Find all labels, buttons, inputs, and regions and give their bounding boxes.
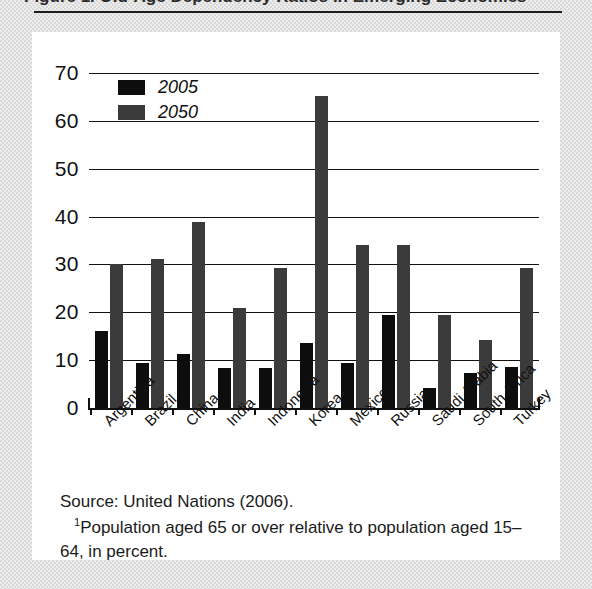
footnote-line: 1Population aged 65 or over relative to …	[60, 515, 536, 564]
bar-china-2005	[177, 354, 190, 408]
bar-argentina-2050	[110, 264, 123, 408]
x-axis-tick	[418, 408, 420, 415]
figure-page: Figure 1. Old-Age Dependency Ratios in E…	[0, 0, 592, 589]
bar-korea-2050	[315, 96, 328, 409]
bar-mexico-2050	[356, 245, 369, 408]
legend-label-2005: 2005	[158, 77, 198, 98]
x-axis-tick	[172, 408, 174, 415]
source-line: Source: United Nations (2006).	[60, 490, 536, 514]
bar-india-2050	[233, 308, 246, 409]
y-axis-tick-label: 0	[37, 396, 79, 420]
y-axis-tick-label: 30	[37, 252, 79, 276]
y-axis-tick-label: 40	[37, 205, 79, 229]
x-axis-tick	[213, 408, 215, 415]
legend-item-2005: 2005	[118, 76, 238, 98]
y-axis-tick-label: 50	[37, 157, 79, 181]
bar-argentina-2005	[95, 331, 108, 408]
figure-notes: Source: United Nations (2006). 1Populati…	[32, 490, 560, 564]
figure-panel: 2005 2050 010203040506070ArgentinaBrazil…	[32, 32, 560, 560]
x-axis-tick	[377, 408, 379, 415]
x-axis-tick	[459, 408, 461, 415]
x-axis-tick	[90, 408, 92, 415]
legend-label-2050: 2050	[158, 102, 198, 123]
x-axis-tick	[336, 408, 338, 415]
bar-china-2050	[192, 222, 205, 408]
y-axis-tick-label: 20	[37, 300, 79, 324]
x-axis-tick	[254, 408, 256, 415]
chart-legend: 2005 2050	[118, 76, 238, 126]
bar-indonesia-2050	[274, 268, 287, 408]
y-axis-tick-label: 10	[37, 348, 79, 372]
bar-chart: 2005 2050 010203040506070ArgentinaBrazil…	[32, 32, 560, 488]
bar-russia-2050	[397, 245, 410, 408]
x-axis-tick	[295, 408, 297, 415]
gridline	[89, 217, 539, 218]
x-axis-tick	[131, 408, 133, 415]
x-axis-tick	[500, 408, 502, 415]
y-axis-tick-label: 60	[37, 109, 79, 133]
bar-saudi-arabia-2050	[438, 315, 451, 408]
gridline	[89, 169, 539, 170]
legend-item-2050: 2050	[118, 101, 238, 123]
figure-title: Figure 1. Old-Age Dependency Ratios in E…	[24, 0, 564, 7]
legend-swatch-2005-icon	[118, 80, 145, 95]
footnote-text: Population aged 65 or over relative to p…	[60, 518, 522, 561]
bar-indonesia-2005	[259, 368, 272, 408]
y-axis-tick-label: 70	[37, 61, 79, 85]
legend-swatch-2050-icon	[118, 105, 145, 120]
title-rule	[34, 11, 562, 13]
gridline	[89, 73, 539, 74]
